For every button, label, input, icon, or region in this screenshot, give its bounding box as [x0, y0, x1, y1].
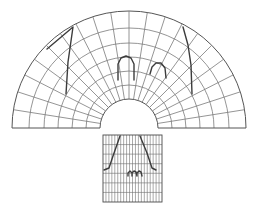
radial-spoke	[93, 17, 120, 101]
radial-spoke	[138, 17, 165, 101]
radial-spoke	[150, 45, 212, 107]
center-arch-curve	[118, 56, 134, 80]
annular-polar-grid	[12, 11, 246, 128]
radial-spoke	[18, 92, 102, 119]
radial-spoke	[157, 92, 241, 119]
inner-ring	[100, 99, 158, 128]
left-zigzag-curve	[47, 27, 73, 94]
mapping-diagram	[0, 0, 254, 219]
right-edge-line	[140, 136, 156, 170]
radial-spoke	[46, 45, 108, 107]
